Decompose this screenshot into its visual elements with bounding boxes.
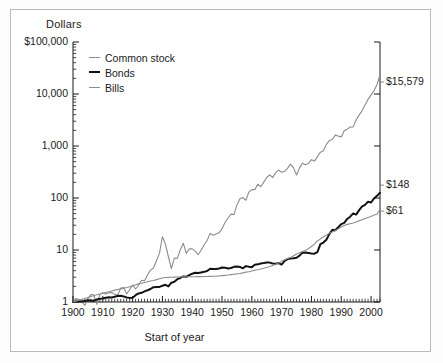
y-tick-label: 10 bbox=[2, 243, 68, 255]
end-label-bonds: $148 bbox=[386, 178, 409, 190]
series-line-common-stock bbox=[73, 75, 380, 305]
legend-swatch-icon bbox=[89, 71, 100, 73]
leader-lines bbox=[380, 82, 384, 211]
x-axis-title-text: Start of year bbox=[145, 331, 205, 343]
y-tick-label: 1,000 bbox=[2, 139, 68, 151]
y-tick-label: 10,000 bbox=[2, 87, 68, 99]
legend-item-label: Common stock bbox=[105, 52, 175, 64]
series-layer bbox=[73, 75, 380, 305]
series-line-bills bbox=[73, 209, 380, 302]
series-line-bonds bbox=[73, 193, 380, 302]
chart-page: Dollars 1101001,00010,000$100,000 190019… bbox=[0, 0, 443, 363]
legend-item-label: Bills bbox=[105, 82, 124, 94]
end-label-bills: $61 bbox=[386, 204, 404, 216]
end-label-common-stock: $15,579 bbox=[386, 75, 424, 87]
y-tick-label: $100,000 bbox=[2, 35, 68, 47]
legend-item-bills[interactable]: Bills bbox=[89, 81, 124, 94]
legend-item-label: Bonds bbox=[105, 67, 135, 79]
y-tick-label: 100 bbox=[2, 191, 68, 203]
legend-swatch-icon bbox=[89, 87, 100, 88]
x-axis-title: Start of year bbox=[0, 331, 443, 343]
x-tick-label: 2000 bbox=[351, 306, 391, 318]
legend-item-bonds[interactable]: Bonds bbox=[89, 66, 135, 79]
legend-item-common-stock[interactable]: Common stock bbox=[89, 51, 175, 64]
legend-swatch-icon bbox=[89, 57, 100, 58]
